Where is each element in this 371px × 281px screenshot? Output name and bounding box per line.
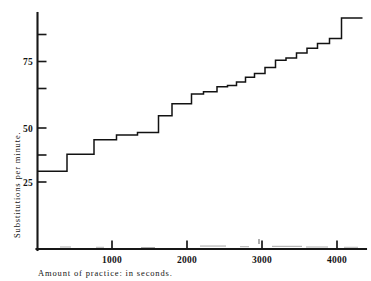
- x-tick-label-3000: 3000: [252, 255, 272, 265]
- chart-figure: 75 50 25 1000 2000 3000 4000 Substitutio…: [0, 0, 371, 281]
- paper-speckle: [60, 239, 358, 248]
- x-tick-label-1000: 1000: [102, 255, 122, 265]
- y-tick-label-75: 75: [23, 57, 33, 67]
- y-tick-label-25: 25: [23, 178, 33, 188]
- step-curve-series: [37, 18, 363, 171]
- x-tick-label-2000: 2000: [177, 255, 197, 265]
- x-tick-label-4000: 4000: [327, 255, 347, 265]
- y-tick-label-50: 50: [23, 124, 33, 134]
- y-tick-labels: 75 50 25: [23, 57, 33, 188]
- y-tick-marks: [38, 35, 47, 183]
- y-axis-title: Substitutions per minute.: [12, 132, 22, 239]
- chart-svg: 75 50 25 1000 2000 3000 4000 Substitutio…: [0, 0, 371, 281]
- x-tick-labels: 1000 2000 3000 4000: [102, 255, 347, 265]
- x-axis-title: Amount of practice: in seconds.: [38, 268, 173, 278]
